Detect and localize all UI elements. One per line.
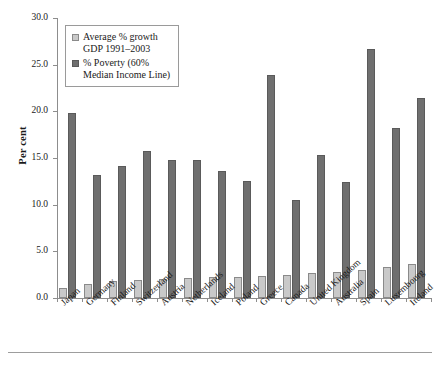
y-axis-tick-label: 5.0 bbox=[8, 246, 48, 255]
legend-swatch-poverty-icon bbox=[72, 60, 79, 67]
y-axis-tick-label: 30.0 bbox=[8, 13, 48, 22]
page-divider-rule bbox=[8, 352, 432, 353]
bar-poverty bbox=[243, 181, 251, 298]
bar-poverty bbox=[392, 128, 400, 298]
y-axis-tick-label: 20.0 bbox=[8, 106, 48, 115]
bar-poverty bbox=[267, 75, 275, 298]
bar-poverty bbox=[193, 160, 201, 298]
legend-swatch-growth-icon bbox=[72, 34, 79, 41]
legend-label-poverty: % Poverty (60% Median Income Line) bbox=[83, 57, 170, 80]
bar-group bbox=[356, 18, 381, 298]
bar-poverty bbox=[292, 200, 300, 298]
bar-poverty bbox=[68, 113, 76, 298]
bar-group bbox=[306, 18, 331, 298]
bar-poverty bbox=[367, 49, 375, 298]
legend-entry-growth: Average % growth GDP 1991–2003 bbox=[72, 31, 170, 54]
bar-group bbox=[331, 18, 356, 298]
x-axis-labels: JapanGermanyFinlandSwitzerlandAustriaNet… bbox=[57, 300, 437, 368]
bar-poverty bbox=[317, 155, 325, 298]
y-axis-tick-label: 0.0 bbox=[8, 293, 48, 302]
chart-legend: Average % growth GDP 1991–2003 % Poverty… bbox=[65, 25, 179, 87]
bar-group bbox=[406, 18, 431, 298]
bar-group bbox=[381, 18, 406, 298]
legend-entry-poverty: % Poverty (60% Median Income Line) bbox=[72, 57, 170, 80]
chart-figure: Per cent 0.05.010.015.020.025.030.0 Japa… bbox=[0, 0, 437, 369]
legend-label-growth: Average % growth GDP 1991–2003 bbox=[83, 31, 158, 54]
bar-group bbox=[207, 18, 232, 298]
y-axis-title: Per cent bbox=[17, 106, 28, 186]
bar-group bbox=[281, 18, 306, 298]
bar-group bbox=[182, 18, 207, 298]
y-axis-tick-label: 15.0 bbox=[8, 153, 48, 162]
bar-poverty bbox=[143, 151, 151, 298]
bar-poverty bbox=[118, 166, 126, 298]
bar-poverty bbox=[93, 175, 101, 298]
y-axis-tick-label: 10.0 bbox=[8, 200, 48, 209]
y-axis-tick-label: 25.0 bbox=[8, 60, 48, 69]
bar-group bbox=[232, 18, 257, 298]
bar-group bbox=[256, 18, 281, 298]
